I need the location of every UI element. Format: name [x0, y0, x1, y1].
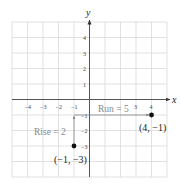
- run-label: Run = 5: [98, 104, 129, 114]
- x-tick-label: −3: [40, 104, 46, 110]
- point-b-marker: [149, 113, 154, 118]
- y-tick-label: 3: [83, 51, 86, 57]
- coordinate-plane: x y −4 −3 −2 −1 3 4 4 3 2 1 −1 −2 −3 Ris…: [0, 0, 180, 193]
- y-axis-label: y: [85, 7, 91, 18]
- x-tick-label: 3: [134, 104, 137, 110]
- x-tick-label: −1: [71, 104, 77, 110]
- y-tick-label: 2: [83, 66, 86, 72]
- y-tick-label: 1: [83, 82, 86, 88]
- point-a-label: (−1, −3): [54, 154, 87, 166]
- y-tick-label: −1: [81, 113, 87, 119]
- x-axis-label: x: [171, 94, 177, 105]
- x-tick-label: 4: [150, 104, 153, 110]
- y-tick-label: −3: [81, 144, 87, 150]
- point-a-marker: [72, 144, 77, 149]
- y-tick-label: −2: [81, 128, 87, 134]
- y-tick-label: 4: [83, 35, 86, 41]
- x-tick-label: −2: [56, 104, 62, 110]
- point-b-label: (4, −1): [139, 122, 166, 134]
- rise-label: Rise = 2: [34, 127, 66, 137]
- x-tick-label: −4: [25, 104, 31, 110]
